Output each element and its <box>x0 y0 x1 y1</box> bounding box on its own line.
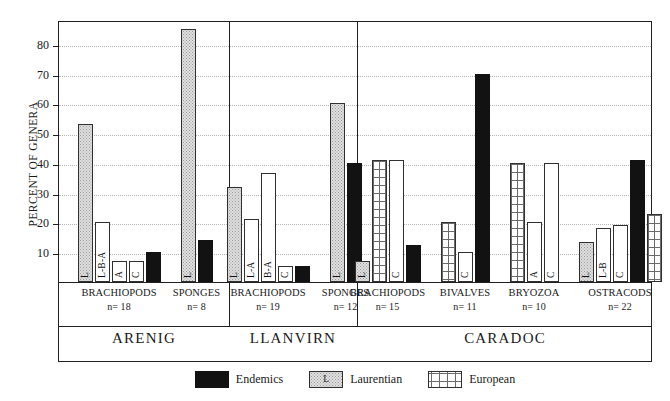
bar-value-label: C <box>391 266 401 278</box>
y-axis-tick-label: 70 <box>21 68 49 83</box>
legend-label-laurentian: Laurentian <box>350 372 402 387</box>
bar-llanvirn-brachiopods-l-a: L-A <box>244 219 259 282</box>
legend-item-laurentian: LLaurentian <box>309 371 402 388</box>
bar-arenig-sponges-l: L <box>181 29 196 282</box>
y-axis-tick-label: 20 <box>21 216 49 231</box>
y-axis-tick <box>53 254 59 255</box>
bar-arenig-brachiopods-l-b-a: L-B-A <box>95 222 110 282</box>
legend-swatch-letter: L <box>323 374 329 384</box>
bar-arenig-brachiopods-a: A <box>112 261 127 282</box>
bar-value-label: L <box>357 266 367 278</box>
legend-item-endemic: Endemics <box>195 371 283 388</box>
bar-caradoc-bivalves-endemic <box>475 74 490 282</box>
stage-label-arenig: ARENIG <box>59 330 229 347</box>
y-axis-tick-label: 80 <box>21 38 49 53</box>
legend-label-european: European <box>469 372 515 387</box>
bar-value-label: C <box>546 266 556 278</box>
bar-value-label: A <box>114 266 124 278</box>
bar-value-label: B-A <box>263 254 273 278</box>
y-axis-tick-label: 10 <box>21 246 49 261</box>
bar-value-label: L-B <box>598 254 608 278</box>
category-label-band: BRACHIOPODSn= 18SPONGESn= 8ARENIGBRACHIO… <box>58 283 652 362</box>
bar-caradoc-bryozoa-a: A <box>527 222 542 282</box>
taxon-name: BRACHIOPODS <box>230 287 305 298</box>
bar-value-label: C <box>131 266 141 278</box>
bar-caradoc-ostracods-l-b: L-B <box>596 228 611 282</box>
taxon-sample-size: n= 22 <box>553 301 670 312</box>
bar-value-label: A <box>529 266 539 278</box>
stage-label-caradoc: CARADOC <box>357 330 653 347</box>
grid-line <box>59 135 651 136</box>
legend-swatch-endemic <box>195 371 229 388</box>
bar-caradoc-brachiopods-endemic <box>406 245 421 282</box>
y-axis-tick <box>53 165 59 166</box>
bar-llanvirn-brachiopods-b-a: B-A <box>261 173 276 282</box>
legend-swatch-laurentian: L <box>309 371 343 388</box>
bar-value-label: L <box>581 266 591 278</box>
bar-value-label: C <box>615 266 625 278</box>
y-axis-tick <box>53 46 59 47</box>
bar-arenig-brachiopods-c: C <box>129 261 144 282</box>
y-axis-tick-label: 60 <box>21 97 49 112</box>
bar-caradoc-ostracods-c: C <box>613 225 628 282</box>
bar-arenig-brachiopods-endemic <box>146 252 161 282</box>
y-axis-tick-label: 50 <box>21 127 49 142</box>
plot-inner: 1020304050607080LL-B-AACLLL-AB-ACLLCCACL… <box>59 22 651 282</box>
bar-caradoc-brachiopods-c: C <box>389 160 404 282</box>
legend-swatch-european <box>428 371 462 388</box>
legend-label-endemic: Endemics <box>236 372 283 387</box>
taxon-label-ostracods: OSTRACODSn= 22 <box>553 287 670 312</box>
bar-caradoc-bivalves-european <box>441 222 456 282</box>
stage-label-llanvirn: LLANVIRN <box>229 330 357 347</box>
y-axis-tick <box>53 224 59 225</box>
bar-llanvirn-brachiopods-c: C <box>278 266 293 282</box>
bar-llanvirn-brachiopods-l: L <box>227 187 242 282</box>
bar-value-label: L <box>332 266 342 278</box>
plot-area: 1020304050607080LL-B-AACLLL-AB-ACLLCCACL… <box>58 21 652 283</box>
y-axis-tick <box>53 105 59 106</box>
y-axis-tick-label: 40 <box>21 157 49 172</box>
y-axis-tick <box>53 76 59 77</box>
bar-caradoc-brachiopods-european <box>372 160 387 282</box>
bar-value-label: L <box>229 266 239 278</box>
bar-value-label: L-A <box>246 254 256 278</box>
bar-caradoc-bryozoa-c: C <box>544 163 559 282</box>
bar-arenig-sponges-endemic <box>198 240 213 282</box>
bar-caradoc-ostracods-european <box>647 214 662 282</box>
y-axis-tick-label: 30 <box>21 187 49 202</box>
y-axis-tick <box>53 135 59 136</box>
bar-caradoc-bivalves-c: C <box>458 252 473 282</box>
bar-value-label: C <box>460 266 470 278</box>
legend-item-european: European <box>428 371 515 388</box>
bar-llanvirn-brachiopods-endemic <box>295 266 310 282</box>
bar-caradoc-brachiopods-l: L <box>355 261 370 282</box>
bar-llanvirn-sponges-l: L <box>330 103 345 282</box>
grid-line <box>59 76 651 77</box>
taxon-name: BRACHIOPODS <box>81 287 156 298</box>
chart-legend: EndemicsLLaurentianEuropean <box>58 367 652 391</box>
taxon-name: OSTRACODS <box>588 287 651 298</box>
bar-value-label: L <box>80 266 90 278</box>
grid-line <box>59 105 651 106</box>
bar-caradoc-ostracods-endemic <box>630 160 645 282</box>
bar-arenig-brachiopods-l: L <box>78 124 93 282</box>
y-axis-tick <box>53 195 59 196</box>
bar-caradoc-bryozoa-european <box>510 163 525 282</box>
bar-value-label: L-B-A <box>97 242 107 278</box>
figure-root: PERCENT OF GENERA 1020304050607080LL-B-A… <box>0 0 670 401</box>
bar-value-label: C <box>280 266 290 278</box>
bar-value-label: L <box>183 266 193 278</box>
bar-caradoc-ostracods-l: L <box>579 242 594 282</box>
grid-line <box>59 46 651 47</box>
